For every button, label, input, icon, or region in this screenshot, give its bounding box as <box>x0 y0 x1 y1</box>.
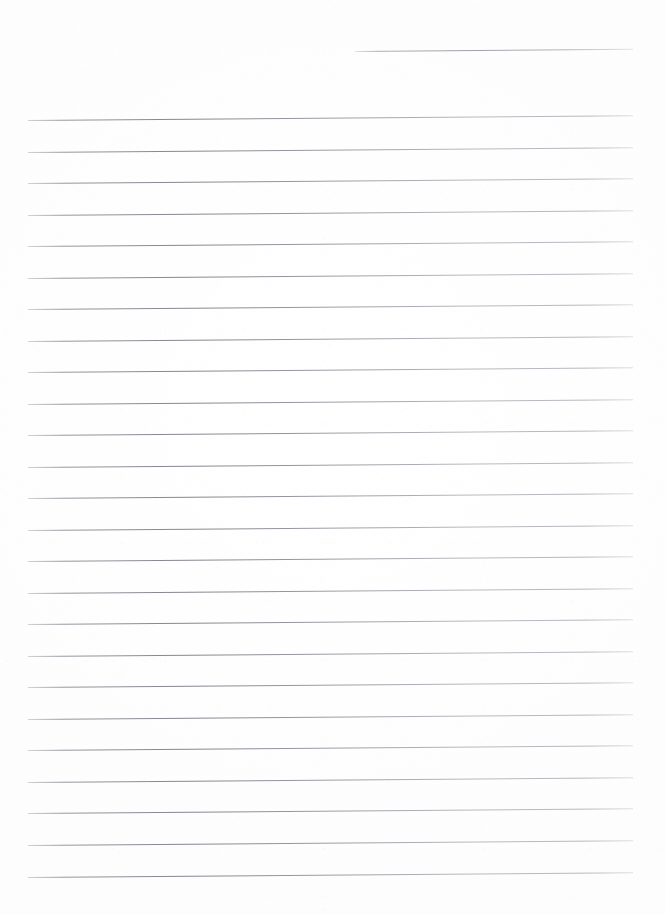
rule-line <box>28 556 633 562</box>
partial-rule-line <box>355 49 633 52</box>
rule-line <box>28 178 633 184</box>
rule-line <box>28 651 633 657</box>
rule-line <box>28 588 633 594</box>
rule-line <box>28 682 633 688</box>
rule-line <box>28 493 633 499</box>
rule-line <box>28 304 633 310</box>
rule-line <box>28 840 633 846</box>
scanned-page <box>0 0 665 915</box>
rule-line <box>28 273 633 279</box>
rule-line <box>28 367 633 373</box>
rule-line <box>28 777 633 783</box>
rule-line <box>28 462 633 468</box>
rule-line <box>28 745 633 751</box>
rule-line <box>28 525 633 531</box>
rule-line <box>28 399 633 405</box>
rule-line <box>28 619 633 625</box>
rule-line <box>28 430 633 436</box>
rule-line <box>28 714 633 720</box>
rule-line <box>28 808 633 814</box>
rule-line <box>28 115 633 121</box>
rule-line <box>28 147 633 153</box>
rule-line <box>28 210 633 216</box>
rule-line <box>28 241 633 247</box>
rule-line <box>28 872 633 878</box>
rule-line <box>28 336 633 342</box>
